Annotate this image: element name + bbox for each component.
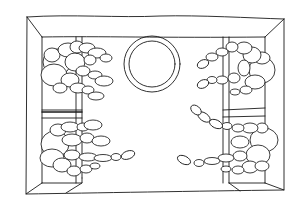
line-drawing-room-figures: Line drawing: top-down view of a box-sha…	[0, 0, 301, 213]
figure-bottom-right	[176, 103, 278, 174]
figure-top-left	[41, 41, 113, 100]
drawing-canvas	[0, 0, 301, 213]
center-circle	[124, 36, 180, 92]
figure-bottom-left	[40, 120, 136, 176]
figure-top-right	[196, 42, 275, 95]
